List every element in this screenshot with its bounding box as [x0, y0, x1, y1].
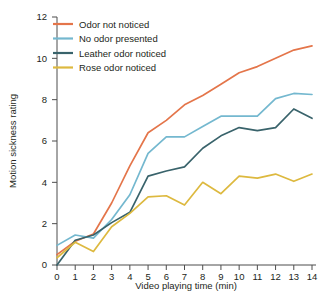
series-line — [57, 46, 312, 255]
series-line — [57, 109, 312, 265]
x-tick-label: 3 — [109, 271, 114, 282]
chart-canvas: 024681012 Motion sickness rating 0123456… — [0, 0, 327, 305]
legend-label: Leather odor noticed — [79, 48, 166, 59]
x-tick-label: 2 — [91, 271, 96, 282]
y-tick-label: 6 — [42, 135, 47, 146]
data-series-group — [57, 46, 312, 265]
x-tick-label: 12 — [270, 271, 281, 282]
line-chart: 024681012 Motion sickness rating 0123456… — [0, 0, 327, 305]
x-tick-label: 1 — [73, 271, 78, 282]
y-tick-label: 2 — [42, 218, 47, 229]
series-line — [57, 174, 312, 258]
y-axis-title: Motion sickness rating — [7, 94, 18, 188]
y-tick-label: 4 — [42, 177, 47, 188]
y-axis-ticks: 024681012 — [36, 11, 57, 270]
y-tick-label: 10 — [36, 53, 47, 64]
x-tick-label: 14 — [307, 271, 318, 282]
series-line — [57, 93, 312, 245]
y-tick-label: 12 — [36, 11, 47, 22]
x-tick-label: 0 — [54, 271, 59, 282]
x-axis-title: Video playing time (min) — [135, 280, 237, 291]
x-tick-label: 11 — [252, 271, 262, 282]
legend-label: Rose odor noticed — [79, 62, 156, 73]
legend-label: Odor not noticed — [79, 19, 149, 30]
x-tick-label: 13 — [288, 271, 299, 282]
legend-label: No odor presented — [79, 33, 158, 44]
x-tick-label: 4 — [127, 271, 132, 282]
x-axis: 01234567891011121314 Video playing time … — [54, 265, 317, 291]
y-tick-label: 8 — [42, 94, 47, 105]
chart-legend: Odor not noticedNo odor presentedLeather… — [53, 19, 166, 74]
y-tick-label: 0 — [42, 259, 47, 270]
y-axis: 024681012 Motion sickness rating — [7, 11, 57, 270]
